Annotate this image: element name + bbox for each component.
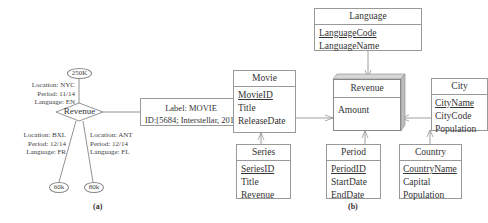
attrs-label-ant: Location: ANT Period: 12/14 Language: FL: [90, 131, 140, 157]
entity-movie: Movie MovieID Title ReleaseDate: [233, 70, 296, 133]
entity-language: Language LanguageCode LanguageName: [314, 8, 422, 51]
entity-series: Series SeriesID Title Revenue: [236, 144, 291, 199]
attrs-label-bxl: Location: BXL Period: 12/14 Language: FR: [20, 131, 66, 157]
value-node-80k: 80k: [84, 182, 104, 193]
fact-revenue: Revenue Amount: [333, 79, 401, 131]
caption-b: (b): [348, 202, 358, 211]
entity-period: Period PeriodID StartDate EndDate: [326, 144, 381, 199]
label-box-movie: Label: MOVIE ID:[5684; Interstellar, 201…: [140, 98, 242, 126]
entity-city: City CityName CityCode Population: [431, 78, 488, 131]
value-node-60k: 60k: [49, 182, 69, 193]
attrs-label-nyc: Location: NYC Period: 11/14 Language: EN: [30, 81, 75, 107]
revenue-node: Revenue: [56, 106, 103, 116]
caption-a: (a): [93, 202, 102, 211]
value-node-250k: 250K: [67, 68, 92, 79]
entity-country: Country CountryName Capital Population: [399, 144, 462, 199]
